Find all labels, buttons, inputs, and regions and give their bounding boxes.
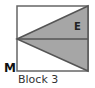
caption: Block 3 xyxy=(18,74,58,86)
label-m: M xyxy=(4,61,16,75)
label-e: E xyxy=(74,21,81,32)
